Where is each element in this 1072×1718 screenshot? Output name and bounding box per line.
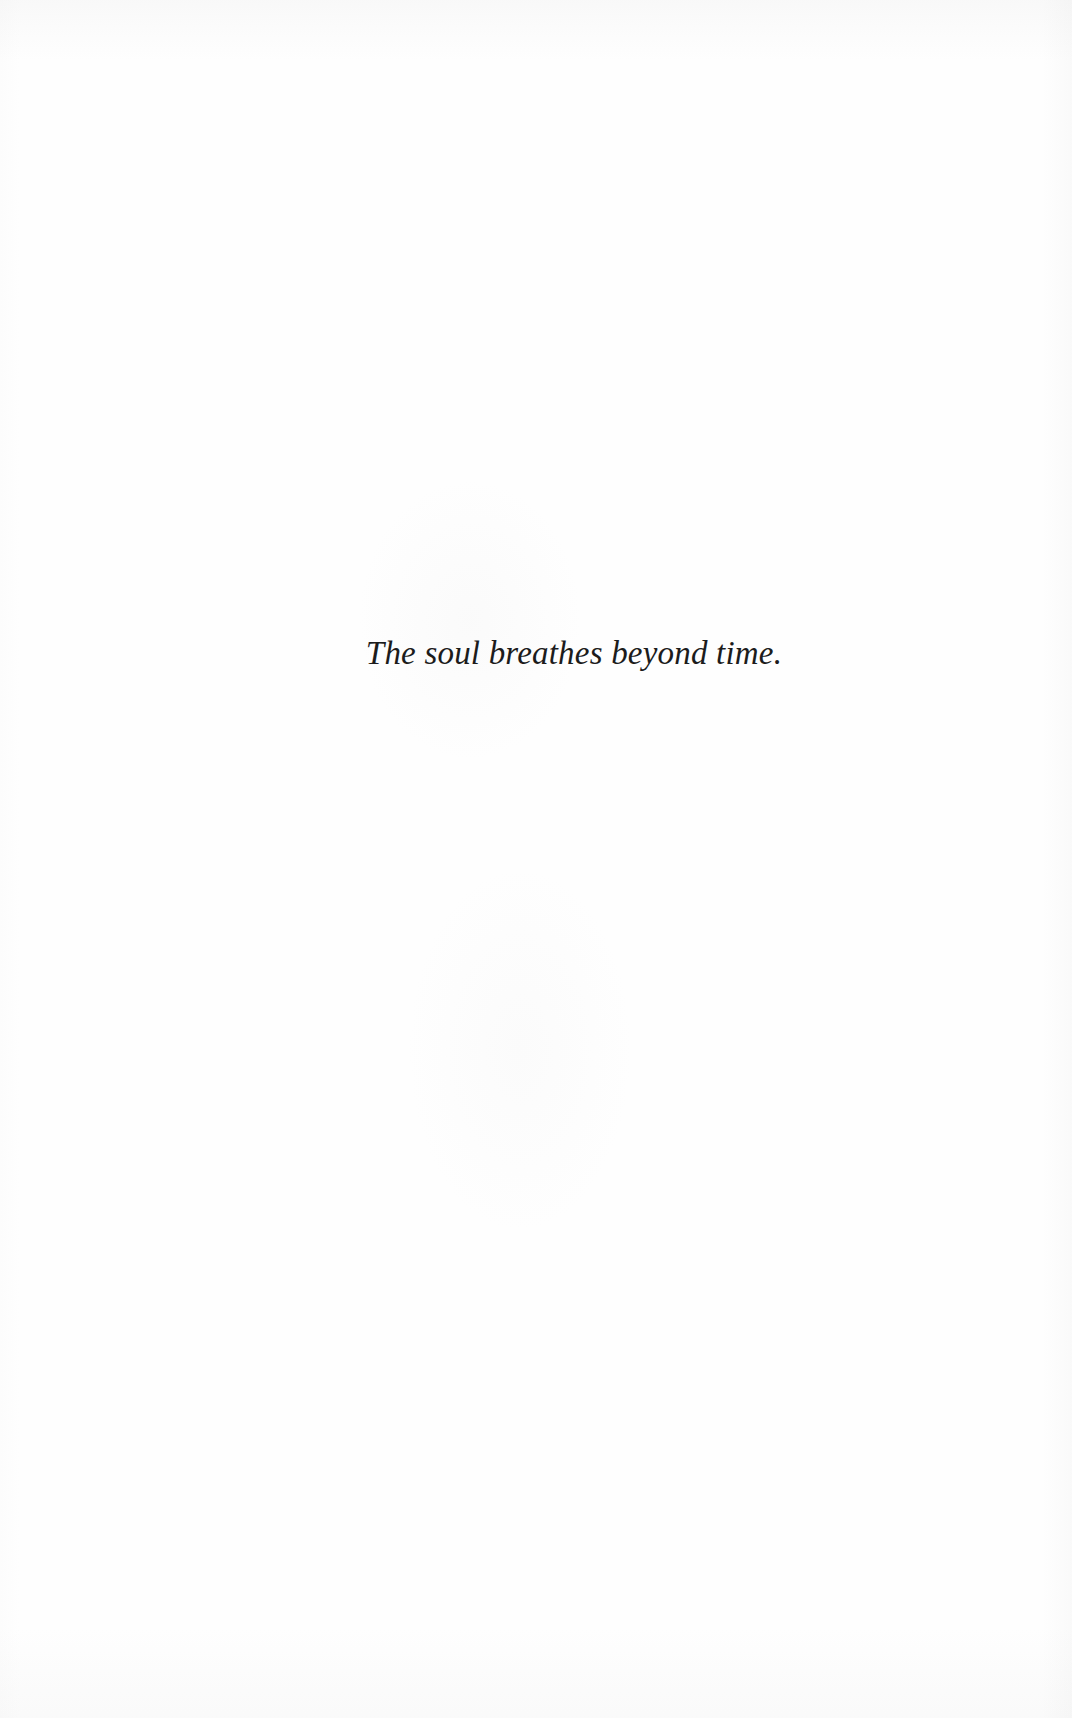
epigraph-text: The soul breathes beyond time. (0, 631, 1072, 675)
paper-texture (0, 0, 1072, 1718)
book-page: The soul breathes beyond time. (0, 0, 1072, 1718)
